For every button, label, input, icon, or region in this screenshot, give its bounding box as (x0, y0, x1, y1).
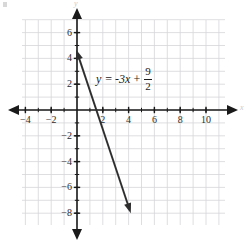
fraction-denominator: 2 (144, 81, 152, 93)
x-tick-label: −4 (16, 115, 34, 125)
y-tick-label: −8 (53, 208, 72, 218)
y-tick-label: 4 (53, 53, 72, 63)
x-tick-label: 4 (120, 115, 138, 125)
equation-plus-sign: + (133, 73, 140, 85)
equation-annotation: y = -3x + 9 2 (96, 66, 152, 92)
equation-fraction: 9 2 (144, 66, 152, 92)
equation-lhs: y (96, 73, 101, 85)
x-tick-label: 10 (197, 115, 215, 125)
equation-slope-term: -3x (115, 73, 130, 85)
y-tick-label: 6 (53, 28, 72, 38)
y-tick-label: −6 (53, 182, 72, 192)
x-tick-label: 6 (145, 115, 163, 125)
x-tick-label: −2 (42, 115, 60, 125)
fraction-numerator: 9 (144, 66, 152, 78)
equation-equals-sign: = (105, 73, 112, 85)
x-axis-label: x (240, 104, 244, 112)
y-tick-label: −2 (53, 131, 72, 141)
y-tick-label: 2 (53, 79, 72, 89)
x-tick-label: 2 (94, 115, 112, 125)
y-tick-label: −4 (53, 157, 72, 167)
x-tick-label: 8 (171, 115, 189, 125)
graph-figure: −4−2246810 642−2−4−6−8 x y y = -3x + 9 2 (0, 0, 246, 244)
y-axis-label: y (74, 0, 78, 8)
